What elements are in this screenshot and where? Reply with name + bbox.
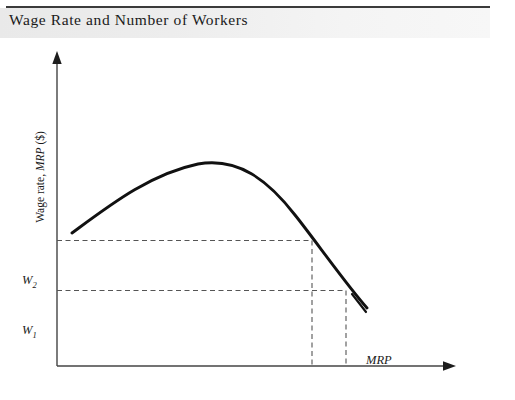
x-axis-arrowhead: [443, 361, 456, 370]
mrp-curve: [72, 163, 367, 308]
mrp-curve-label: MRP: [366, 353, 392, 368]
chart-svg: [0, 40, 515, 400]
chart-plot-area: Wage rate, MRP ($) Number of workers W2 …: [0, 40, 515, 400]
y-tick-w1-subscript: 1: [32, 330, 36, 340]
y-tick-w2-subscript: 2: [32, 280, 36, 290]
figure-container: Wage Rate and Number of Workers Wage rat…: [0, 0, 515, 400]
y-tick-w2-letter: W: [22, 273, 32, 287]
y-axis-label-suffix: ($): [34, 131, 46, 147]
y-axis-label-prefix: Wage rate,: [34, 171, 46, 223]
y-tick-w1-letter: W: [22, 323, 32, 337]
y-axis-label-mrp: MRP: [34, 147, 46, 171]
y-tick-label-w1: W1: [22, 323, 37, 340]
y-tick-label-w2: W2: [22, 273, 37, 290]
y-axis-label: Wage rate, MRP ($): [34, 97, 46, 257]
page-title: Wage Rate and Number of Workers: [9, 11, 248, 29]
y-axis-arrowhead: [52, 51, 61, 64]
